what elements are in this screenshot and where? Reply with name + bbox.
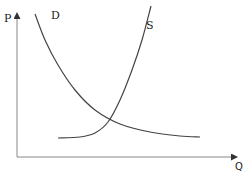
demand-curve <box>35 14 200 137</box>
supply-demand-chart: P Q D S <box>0 0 246 176</box>
supply-label: S <box>146 19 154 32</box>
supply-curve <box>58 6 151 138</box>
y-axis-label: P <box>4 12 12 25</box>
x-axis-label: Q <box>235 161 243 172</box>
demand-label: D <box>51 9 60 22</box>
